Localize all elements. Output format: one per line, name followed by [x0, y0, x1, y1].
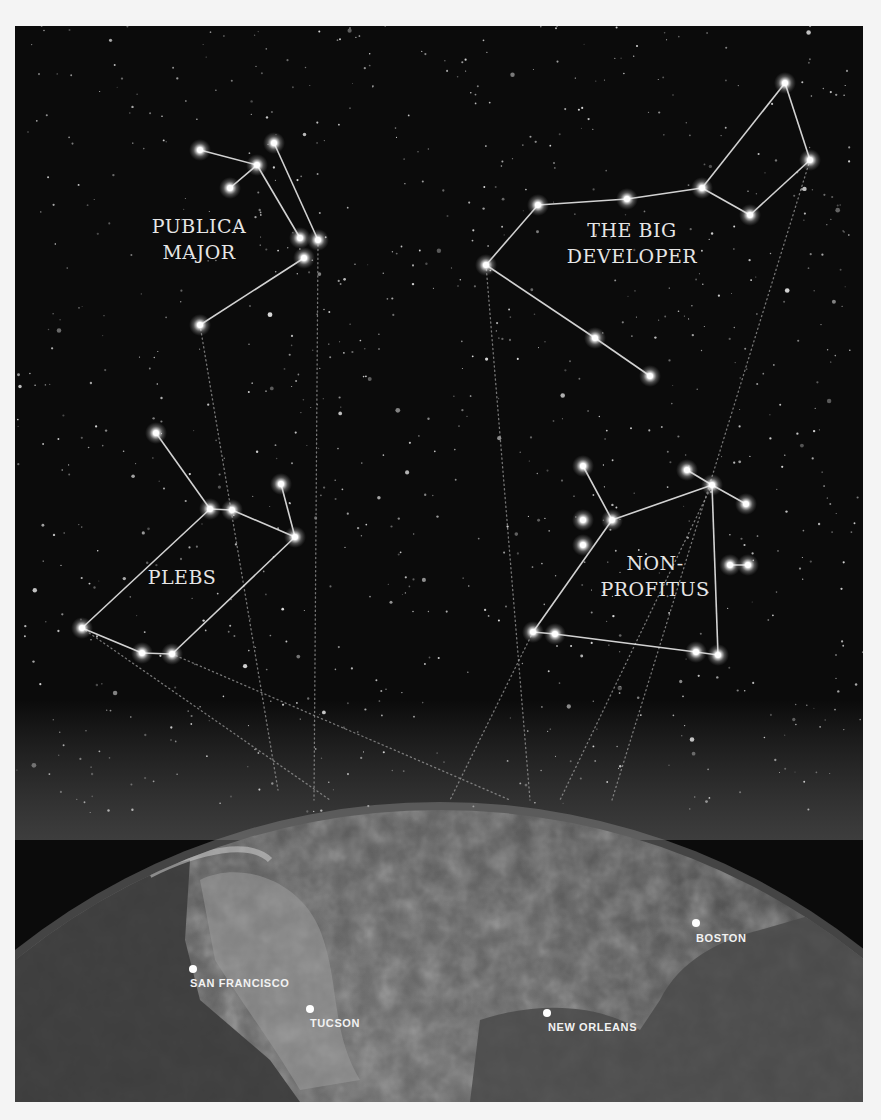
background-star [191, 598, 192, 599]
background-star [275, 444, 277, 446]
background-star [658, 111, 660, 113]
background-star [265, 248, 267, 250]
background-star [337, 39, 339, 41]
city-label: BOSTON [696, 932, 746, 944]
background-star [57, 328, 62, 333]
background-star [123, 577, 126, 580]
background-star [207, 404, 209, 406]
background-star [465, 59, 467, 61]
background-star [369, 65, 371, 67]
background-star [425, 263, 427, 265]
background-star [584, 561, 586, 563]
background-star [123, 450, 125, 452]
background-star [270, 387, 274, 391]
background-star [769, 437, 771, 439]
background-star [136, 615, 137, 616]
background-star [667, 486, 669, 488]
background-star [559, 682, 561, 684]
background-star [591, 589, 592, 590]
background-star [544, 518, 545, 519]
background-star [149, 112, 151, 114]
background-star [300, 412, 301, 413]
background-star [446, 70, 448, 72]
background-star [291, 462, 293, 464]
background-star [89, 583, 91, 585]
background-star [421, 51, 422, 52]
background-star [755, 276, 756, 277]
background-star [839, 204, 841, 206]
background-star [810, 560, 812, 562]
background-star [831, 196, 833, 198]
background-star [112, 174, 114, 176]
background-star [669, 461, 671, 463]
background-star [256, 451, 258, 453]
background-star [339, 38, 341, 40]
background-star [255, 647, 256, 648]
background-star [627, 296, 628, 297]
background-star [335, 669, 337, 671]
background-star [525, 189, 527, 191]
background-star [457, 285, 458, 286]
background-star [363, 376, 365, 378]
background-star [18, 385, 21, 388]
background-star [751, 552, 753, 554]
background-star [783, 301, 785, 303]
background-star [842, 306, 843, 307]
background-star [189, 473, 191, 475]
background-star [352, 83, 353, 84]
background-star [108, 222, 110, 224]
background-star [66, 267, 68, 269]
background-star [553, 162, 555, 164]
background-star [711, 232, 713, 234]
background-star [392, 251, 393, 252]
background-star [307, 697, 309, 699]
background-star [429, 657, 431, 659]
background-star [685, 454, 687, 456]
city-dot-icon [189, 965, 197, 973]
background-star [78, 524, 79, 525]
background-star [338, 124, 340, 126]
background-star [728, 667, 730, 669]
background-star [233, 635, 235, 637]
background-star [823, 485, 825, 487]
background-star [324, 140, 325, 141]
background-star [291, 386, 292, 387]
background-star [835, 678, 836, 679]
background-star [201, 523, 202, 524]
background-star [685, 658, 686, 659]
background-star [442, 189, 444, 191]
background-star [424, 663, 426, 665]
background-star [478, 538, 480, 540]
background-star [811, 95, 813, 97]
background-star [784, 455, 785, 456]
background-star [117, 87, 118, 88]
background-star [827, 399, 832, 404]
background-star [606, 621, 607, 622]
background-star [377, 496, 381, 500]
background-star [202, 619, 204, 621]
background-star [265, 390, 267, 392]
illustration-frame: PUBLICAMAJORTHE BIGDEVELOPERPLEBSNON-PRO… [15, 26, 863, 1102]
background-star [103, 315, 104, 316]
background-star [818, 523, 820, 525]
background-star [573, 496, 574, 497]
background-star [770, 253, 771, 254]
background-star [750, 279, 752, 281]
background-star [305, 67, 306, 68]
background-star [535, 141, 537, 143]
background-star [648, 429, 650, 431]
background-star [718, 295, 720, 297]
background-star [160, 420, 162, 422]
background-star [260, 214, 262, 216]
background-star [400, 551, 402, 553]
background-star [310, 407, 311, 408]
background-star [530, 436, 532, 438]
background-star [295, 432, 297, 434]
background-star [625, 214, 626, 215]
background-star [842, 645, 844, 647]
background-star [716, 676, 718, 678]
background-star [206, 56, 207, 57]
background-star [229, 625, 231, 627]
background-star [97, 233, 99, 235]
background-star [721, 456, 722, 457]
